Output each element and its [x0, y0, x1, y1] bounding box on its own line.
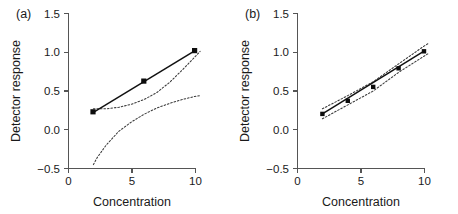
panel-a-x-axis: 0 5 10 [65, 169, 202, 188]
y-tick-label-1-5: 1.5 [44, 8, 60, 20]
regression-line [322, 51, 424, 114]
x-tick-label-0: 0 [294, 175, 300, 187]
chart-panel-b: (b) 1.5 1.0 0.5 0.0 −0.5 0 5 [229, 0, 458, 214]
data-point [371, 85, 375, 89]
y-tick-label-neg-0-5: −0.5 [37, 163, 60, 175]
y-tick-label-1-5: 1.5 [273, 8, 289, 20]
y-axis-title: Detector response [9, 40, 23, 142]
data-point [346, 99, 350, 103]
panel-b-y-axis: 1.5 1.0 0.5 0.0 −0.5 [266, 8, 297, 175]
upper-confidence-band [322, 44, 427, 109]
y-axis-title: Detector response [238, 40, 252, 142]
panel-a-y-axis: 1.5 1.0 0.5 0.0 −0.5 [37, 8, 68, 175]
y-tick-label-1-0: 1.0 [273, 46, 289, 58]
x-tick-label-5: 5 [358, 175, 364, 187]
data-point [141, 79, 146, 84]
x-tick-label-10: 10 [418, 175, 431, 187]
data-point [320, 112, 324, 116]
y-tick-label-0-5: 0.5 [44, 85, 60, 97]
y-tick-label-0-5: 0.5 [273, 85, 289, 97]
lower-confidence-band [93, 96, 200, 165]
y-tick-label-neg-0-5: −0.5 [266, 163, 289, 175]
data-point [90, 109, 95, 114]
x-tick-label-0: 0 [65, 175, 71, 187]
x-tick-label-10: 10 [189, 175, 202, 187]
panel-b-svg: (b) 1.5 1.0 0.5 0.0 −0.5 0 5 [229, 0, 458, 214]
x-tick-label-5: 5 [129, 175, 135, 187]
y-tick-label-0-0: 0.0 [273, 124, 289, 136]
y-tick-label-1-0: 1.0 [44, 46, 60, 58]
panel-a-svg: (a) 1.5 1.0 0.5 0.0 −0.5 0 5 [0, 0, 229, 214]
chart-panel-a: (a) 1.5 1.0 0.5 0.0 −0.5 0 5 [0, 0, 229, 214]
data-point [396, 66, 400, 70]
panel-a-tag: (a) [16, 7, 31, 21]
panel-b-tag: (b) [245, 7, 260, 21]
y-tick-label-0-0: 0.0 [44, 124, 60, 136]
x-axis-title: Concentration [93, 195, 171, 209]
panel-b-x-axis: 0 5 10 [294, 169, 431, 188]
data-point [422, 49, 426, 53]
figure-container: (a) 1.5 1.0 0.5 0.0 −0.5 0 5 [0, 0, 458, 214]
data-point [192, 48, 197, 53]
x-axis-title: Concentration [322, 195, 400, 209]
